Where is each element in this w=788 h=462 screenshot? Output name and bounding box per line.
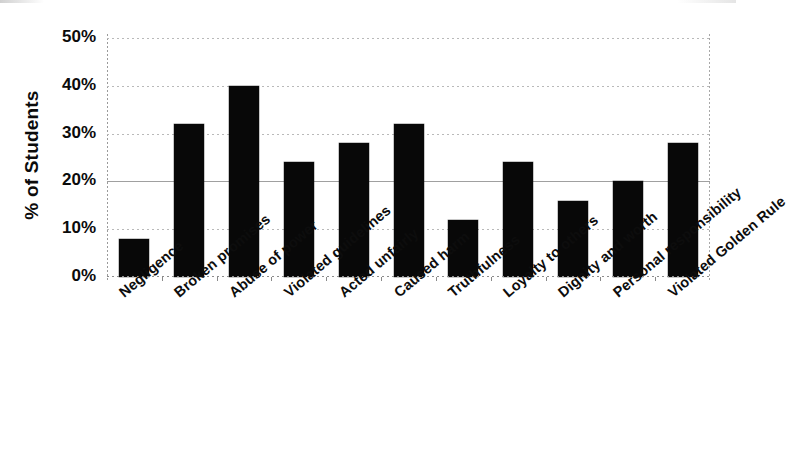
x-tick (491, 277, 492, 281)
y-axis-title-text: % of Students (21, 90, 43, 219)
x-tick (381, 277, 382, 281)
x-tick (162, 277, 163, 281)
y-tick-label: 30% (38, 123, 96, 143)
y-tick-label: 50% (38, 27, 96, 47)
bar (339, 143, 369, 277)
x-tick (600, 277, 601, 281)
x-tick (326, 277, 327, 281)
x-tick (217, 277, 218, 281)
bar (668, 143, 698, 277)
y-tick-label: 20% (38, 170, 96, 190)
gridline (107, 38, 710, 39)
scan-edge-artifact (0, 0, 736, 3)
gridline (107, 86, 710, 87)
bar (503, 162, 533, 277)
x-tick (271, 277, 272, 281)
x-axis-category-labels: NegligenceBroken promisesAbuse of powerV… (0, 282, 736, 462)
y-tick-label: 40% (38, 75, 96, 95)
y-axis-line (107, 34, 108, 281)
y-axis-title: % of Students (14, 30, 50, 280)
x-tick (546, 277, 547, 281)
x-tick (436, 277, 437, 281)
x-tick (655, 277, 656, 281)
plot-right-edge (709, 34, 710, 281)
y-tick-label: 10% (38, 218, 96, 238)
